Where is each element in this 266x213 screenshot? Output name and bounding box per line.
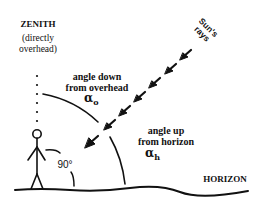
zenith-dotted-line — [36, 75, 38, 122]
stick-figure-observer — [28, 130, 45, 189]
subscript-h: h — [154, 152, 160, 162]
subscript-o: o — [93, 97, 98, 107]
angle-up-label-line2: from horizon — [134, 136, 198, 147]
right-angle-label: 90° — [54, 160, 76, 170]
alpha-glyph: α — [84, 91, 93, 105]
alpha-overhead-symbol: αo — [84, 92, 99, 106]
zenith-label: ZENITH — [14, 20, 62, 29]
angle-up-label-line1: angle up — [134, 125, 198, 136]
angle-down-label-line1: angle down — [62, 71, 132, 82]
arrow-icon — [85, 136, 98, 148]
zenith-description: (directly overhead) — [10, 33, 66, 55]
zenith-description-line1: (directly — [10, 33, 66, 44]
angle-down-label: angle down from overhead — [62, 71, 132, 93]
angle-up-label: angle up from horizon — [134, 125, 198, 147]
arrow-icon — [134, 92, 145, 102]
sun-angle-diagram: ZENITH (directly overhead) Sun's rays an… — [0, 0, 266, 213]
horizon-label: HORIZON — [198, 175, 252, 184]
angle-arc — [43, 94, 125, 184]
arrow-icon — [149, 78, 160, 88]
arrow-icon — [180, 50, 191, 60]
horizon-line — [15, 187, 248, 196]
arrow-icon — [165, 64, 176, 74]
alpha-glyph: α — [145, 146, 154, 160]
arrow-icon — [104, 120, 115, 130]
alpha-horizon-symbol: αh — [145, 147, 160, 161]
zenith-description-line2: overhead) — [10, 44, 66, 55]
arrow-icon — [119, 106, 130, 116]
